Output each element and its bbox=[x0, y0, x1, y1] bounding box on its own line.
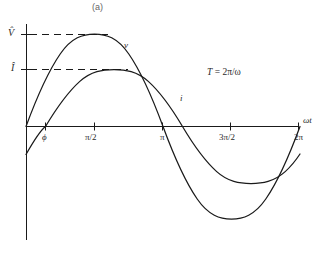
x-tick-label-2pi: 2π bbox=[294, 133, 303, 142]
panel-caption: (a) bbox=[92, 3, 103, 12]
x-tick-label-pi: π bbox=[160, 133, 165, 142]
curve-label-i: i bbox=[180, 94, 183, 103]
waveform-plot bbox=[0, 0, 324, 262]
figure-root: (a) V̂ Î ϕ π/2 π 3π/2 2π ωt v i T = 2π/… bbox=[0, 0, 324, 262]
x-tick-label-pi-over-2: π/2 bbox=[85, 133, 97, 142]
period-expression: = 2π/ω bbox=[212, 67, 241, 77]
curve-label-v: v bbox=[124, 41, 128, 50]
y-tick-label-v-peak: V̂ bbox=[8, 28, 14, 38]
period-annotation: T = 2π/ω bbox=[207, 68, 241, 78]
x-tick-label-phi: ϕ bbox=[42, 133, 47, 142]
y-tick-label-i-peak: Î bbox=[11, 63, 14, 73]
x-tick-label-3pi-over-2: 3π/2 bbox=[219, 133, 235, 142]
x-axis-label: ωt bbox=[303, 116, 312, 125]
